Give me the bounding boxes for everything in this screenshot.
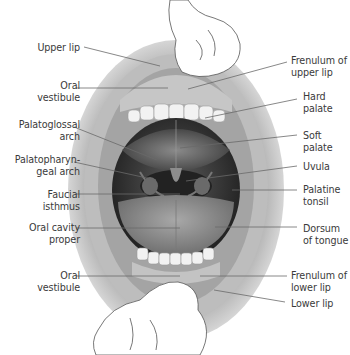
- leader-line-lower-lip: [214, 290, 285, 302]
- oral-cavity-diagram: Upper lipOral vestibulePalatoglossal arc…: [0, 0, 350, 355]
- leader-line-palatoglossal-arch: [74, 127, 157, 160]
- label-faucial-isthmus: Faucial isthmus: [8, 189, 80, 213]
- label-frenulum-lower-lip: Frenulum of lower lip: [291, 270, 350, 294]
- leader-line-palatopharyngeal-arch: [74, 162, 156, 180]
- label-upper-lip: Upper lip: [8, 42, 80, 54]
- label-dorsum-of-tongue: Dorsum of tongue: [303, 223, 349, 247]
- label-lower-lip: Lower lip: [291, 298, 350, 310]
- label-uvula: Uvula: [303, 161, 349, 173]
- leader-line-upper-lip: [84, 47, 160, 66]
- label-soft-palate: Soft palate: [303, 130, 349, 154]
- label-oral-vestibule-lower: Oral vestibule: [8, 270, 80, 294]
- label-palatoglossal-arch: Palatoglossal arch: [8, 119, 80, 143]
- label-oral-vestibule-upper: Oral vestibule: [8, 80, 80, 104]
- leader-line-hard-palate: [205, 99, 297, 118]
- label-frenulum-upper-lip: Frenulum of upper lip: [291, 55, 350, 79]
- leader-line-soft-palate: [180, 135, 297, 148]
- label-oral-cavity-proper: Oral cavity proper: [8, 222, 80, 246]
- label-palatopharyngeal-arch: Palatopharyn- geal arch: [8, 154, 80, 178]
- label-palatine-tonsil: Palatine tonsil: [303, 184, 349, 208]
- leader-line-frenulum-upper-lip: [188, 62, 287, 89]
- leader-line-uvula: [186, 166, 297, 181]
- label-hard-palate: Hard palate: [303, 91, 349, 115]
